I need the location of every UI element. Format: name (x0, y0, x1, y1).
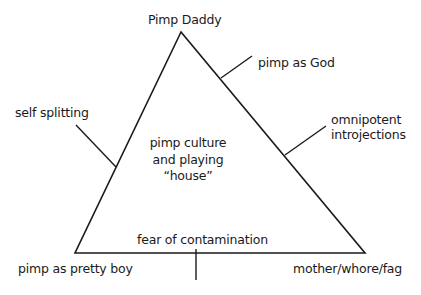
center-line-2: and playing (140, 152, 236, 167)
label-self-splitting: self splitting (15, 105, 89, 120)
label-introjections: introjections (331, 127, 406, 142)
center-line-1: pimp culture (140, 135, 236, 150)
label-mother-whore-fag: mother/whore/fag (293, 261, 402, 276)
tick-self-splitting (76, 125, 116, 167)
label-pimp-as-pretty-boy: pimp as pretty boy (18, 261, 133, 276)
label-omnipotent: omnipotent (331, 112, 401, 127)
tick-pimp-as-god (221, 56, 252, 78)
center-line-3: “house” (140, 168, 236, 183)
label-pimp-as-god: pimp as God (258, 55, 335, 70)
label-pimp-daddy: Pimp Daddy (148, 12, 221, 27)
label-fear-of-contamination: fear of contamination (137, 232, 268, 247)
tick-omnipotent-introjections (285, 126, 326, 155)
